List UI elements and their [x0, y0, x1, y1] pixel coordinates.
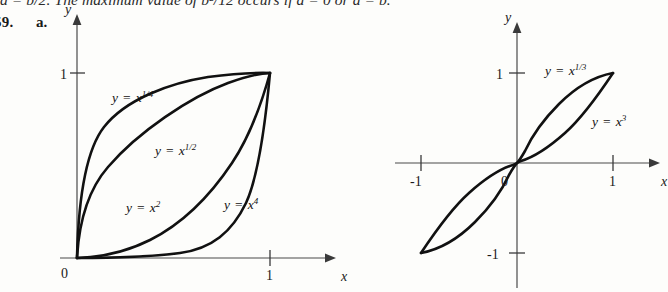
curve-x-fourth: [77, 73, 270, 258]
x-axis-label: x: [340, 269, 348, 284]
y-axis-label: y: [63, 2, 72, 17]
y-axis-label: y: [503, 10, 512, 25]
x-axis-arrowhead: [325, 254, 336, 263]
exercise-number: 59.: [0, 14, 14, 31]
x-tick-label-1: 1: [609, 174, 616, 189]
y-tick-label-1: 1: [60, 67, 67, 82]
x-tick-label-neg1: -1: [410, 174, 422, 189]
left-graph-figure: y=x1/4 y=x1/2 y=x2 y=x4 1 0 1 x y: [60, 0, 360, 292]
left-axes: [60, 14, 336, 266]
label-x-one-third: y=x1/3: [543, 62, 587, 78]
y-axis-arrowhead: [73, 14, 82, 25]
y-tick-label-neg1: -1: [487, 247, 499, 262]
curve-x-one-half: [77, 73, 270, 258]
origin-label: 0: [501, 174, 508, 189]
x-tick-label-1: 1: [266, 268, 273, 283]
x-axis-label: x: [660, 174, 668, 189]
label-x-one-half: y=x1/2: [153, 142, 197, 158]
label-x-cubed: y=x3: [590, 113, 627, 129]
origin-label: 0: [61, 266, 68, 281]
curve-x-squared: [77, 73, 270, 258]
exercise-part-label: a.: [36, 14, 47, 31]
y-tick-label-1: 1: [496, 67, 503, 82]
textbook-figure-page: a = b/2. The maximum value of b²/12 occu…: [0, 0, 668, 292]
y-axis-arrowhead: [513, 22, 522, 33]
x-axis-arrowhead: [649, 159, 660, 168]
label-x-fourth: y=x4: [222, 196, 259, 212]
right-graph-figure: y=x1/3 y=x3 -1 1 0 1 -1 x y: [395, 0, 668, 292]
curve-x-one-fourth: [77, 73, 270, 258]
label-x-squared: y=x2: [124, 199, 161, 215]
